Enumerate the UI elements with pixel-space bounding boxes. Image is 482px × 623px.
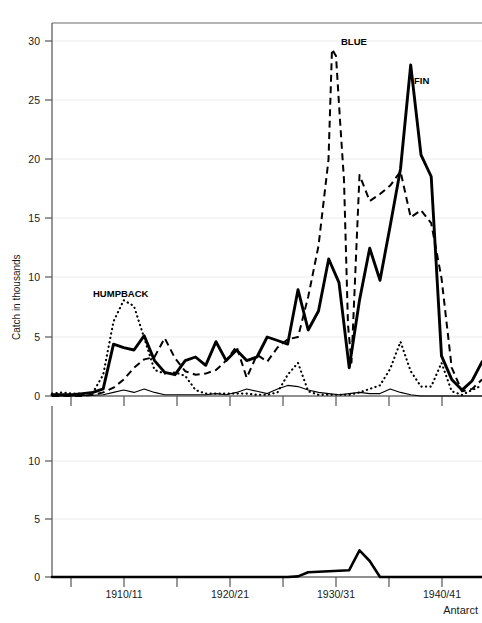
bottom-ytick-label-10: 10 [28, 455, 40, 467]
series-line-sei [52, 385, 482, 396]
top-ytick-label-0: 0 [34, 390, 40, 402]
top-panel-yticks [45, 41, 52, 396]
xtick-label-1910: 1910/11 [105, 588, 142, 600]
top-ytick-label-20: 20 [28, 153, 40, 165]
chart-svg: 30 25 20 15 10 5 0 [0, 0, 482, 623]
bottom-ytick-label-5: 5 [34, 513, 40, 525]
series-line-fin [52, 65, 482, 395]
bottom-ytick-label-0: 0 [34, 571, 40, 583]
top-panel-xticks [71, 396, 442, 406]
series-line-sperm [52, 550, 482, 577]
bottom-panel-gridlines [52, 461, 482, 519]
bottom-panel: 10 5 0 1910/11 1920/21 1930/31 1940/41 A [28, 406, 482, 616]
whale-catch-chart: 30 25 20 15 10 5 0 [0, 0, 482, 623]
series-label-fin: FIN [414, 75, 429, 86]
xtick-label-1940: 1940/41 [423, 588, 461, 600]
series-line-humpback [52, 300, 482, 395]
top-ytick-label-30: 30 [28, 35, 40, 47]
xtick-label-1920: 1920/21 [211, 588, 249, 600]
top-panel: 30 25 20 15 10 5 0 [11, 23, 482, 406]
corner-caption: Antarct [443, 604, 478, 616]
bottom-panel-xticks [71, 577, 442, 587]
series-label-blue: BLUE [341, 36, 367, 47]
top-ytick-label-15: 15 [28, 212, 40, 224]
top-ytick-label-25: 25 [28, 94, 40, 106]
y-axis-title: Catch in thousands [11, 254, 22, 340]
top-ytick-label-10: 10 [28, 271, 40, 283]
top-ytick-label-5: 5 [34, 331, 40, 343]
series-label-humpback: HUMPBACK [93, 288, 149, 299]
bottom-panel-yticks [45, 461, 52, 577]
xtick-label-1930: 1930/31 [317, 588, 355, 600]
